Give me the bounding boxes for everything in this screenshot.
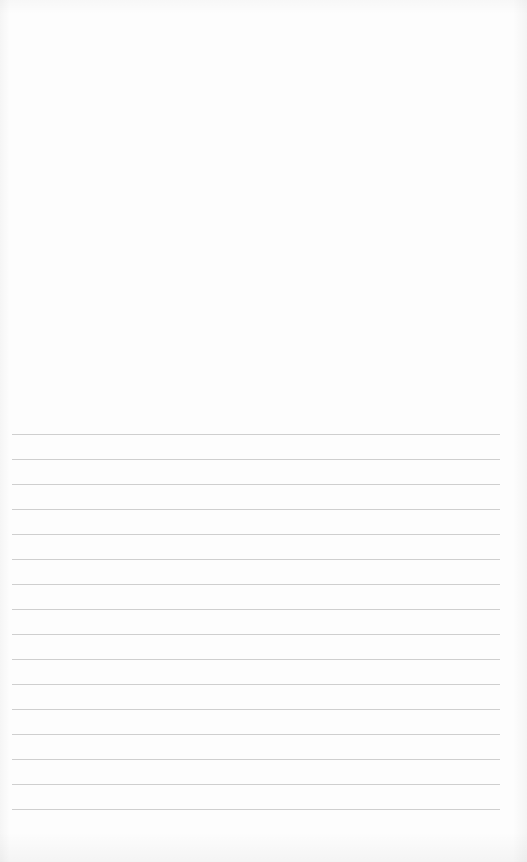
ruled-line — [12, 709, 500, 710]
ruled-line — [12, 559, 500, 560]
ruled-line — [12, 634, 500, 635]
ruled-line — [12, 734, 500, 735]
ruled-line — [12, 659, 500, 660]
ruled-lines-area — [0, 420, 527, 840]
ruled-line — [12, 484, 500, 485]
ruled-line — [12, 434, 500, 435]
blank-writing-area — [0, 0, 527, 420]
ruled-line — [12, 809, 500, 810]
ruled-line — [12, 509, 500, 510]
paper-sheet — [0, 0, 527, 862]
ruled-line — [12, 584, 500, 585]
ruled-line — [12, 759, 500, 760]
ruled-line — [12, 459, 500, 460]
ruled-line — [12, 609, 500, 610]
ruled-line — [12, 534, 500, 535]
ruled-line — [12, 684, 500, 685]
ruled-line — [12, 784, 500, 785]
